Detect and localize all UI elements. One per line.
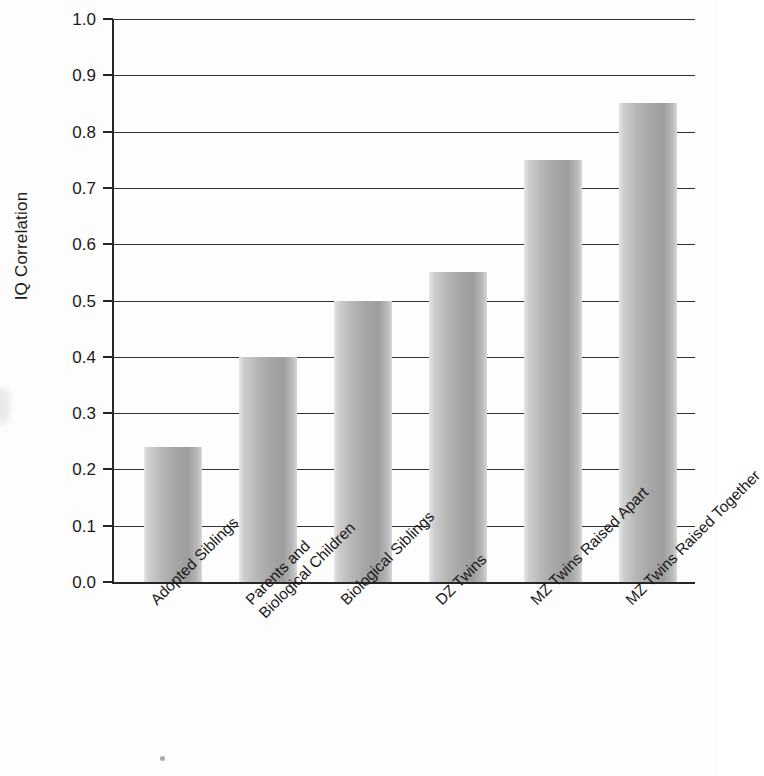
- x-axis-line: [112, 582, 695, 584]
- y-axis-tick: [103, 468, 113, 470]
- y-axis-tick-label: 0.1: [72, 517, 96, 534]
- y-axis-tick: [103, 18, 113, 20]
- y-axis-tick: [103, 525, 113, 527]
- y-axis-tick: [103, 356, 113, 358]
- y-axis-tick: [103, 581, 113, 583]
- y-axis-tick: [103, 74, 113, 76]
- gridline: [112, 188, 695, 189]
- scan-artifact-left: [0, 388, 10, 424]
- y-axis-tick-label: 1.0: [72, 11, 96, 28]
- gridline: [112, 244, 695, 245]
- gridline: [112, 357, 695, 358]
- bar: [524, 160, 582, 582]
- y-axis-title: IQ Correlation: [12, 166, 32, 326]
- gridline: [112, 75, 695, 76]
- scan-artifact-dot: [160, 756, 165, 761]
- y-axis-tick-label: 0.8: [72, 123, 96, 140]
- y-axis-tick-label: 0.4: [72, 348, 96, 365]
- gridline: [112, 301, 695, 302]
- y-axis-line: [112, 19, 114, 584]
- y-axis-tick: [103, 131, 113, 133]
- y-axis-tick: [103, 243, 113, 245]
- plot-area: 0.00.10.20.30.40.50.60.70.80.91.0: [112, 19, 695, 584]
- y-axis-tick: [103, 412, 113, 414]
- y-axis-tick-label: 0.5: [72, 292, 96, 309]
- gridline: [112, 413, 695, 414]
- y-axis-tick-label: 0.3: [72, 405, 96, 422]
- y-axis-tick-label: 0.2: [72, 461, 96, 478]
- bar: [429, 272, 487, 582]
- y-axis-tick-label: 0.7: [72, 179, 96, 196]
- y-axis-tick-label: 0.6: [72, 236, 96, 253]
- y-axis-tick-label: 0.9: [72, 67, 96, 84]
- y-axis-tick: [103, 300, 113, 302]
- gridline: [112, 132, 695, 133]
- y-axis-tick: [103, 187, 113, 189]
- gridline: [112, 19, 695, 20]
- y-axis-tick-label: 0.0: [72, 574, 96, 591]
